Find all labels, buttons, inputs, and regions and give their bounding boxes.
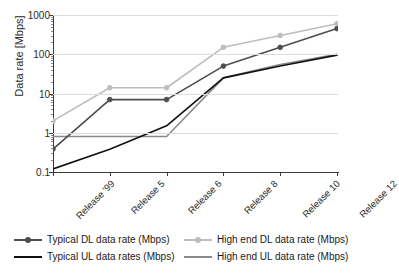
legend-item[interactable]: Typical DL data rate (Mbps) [14, 234, 184, 245]
y-tick-minor [51, 137, 53, 138]
y-tick-minor [51, 109, 53, 110]
y-tick-minor [51, 100, 53, 101]
legend-swatch-icon [184, 252, 212, 262]
y-tick-minor [51, 56, 53, 57]
series-marker [221, 64, 226, 69]
y-tick-minor [51, 21, 53, 22]
legend-item[interactable]: High end UL data rate (Mbps) [184, 251, 354, 262]
series-marker [278, 45, 283, 50]
legend-label: Typical UL data rates (Mbps) [47, 251, 174, 262]
legend-label: High end DL data rate (Mbps) [217, 234, 348, 245]
x-axis-line [53, 172, 339, 173]
y-tick-minor [51, 82, 53, 83]
x-tick [167, 172, 168, 176]
y-tick-label: 0.1 [36, 167, 50, 178]
x-tick [53, 172, 54, 176]
x-axis-tick-labels: Release '99Release 5Release 6Release 8Re… [53, 178, 339, 222]
y-tick-minor [51, 31, 53, 32]
x-tick-label: Release 10 [300, 178, 342, 220]
y-tick-minor [51, 19, 53, 20]
series-marker [53, 119, 55, 124]
series-marker [278, 33, 283, 38]
y-tick-minor [51, 114, 53, 115]
x-tick-label: Release 5 [128, 178, 166, 216]
y-tick-label: 1000 [28, 10, 50, 21]
series-marker [164, 97, 169, 102]
x-tick-label: Release '99 [74, 178, 117, 221]
y-tick-label: 100 [33, 49, 50, 60]
x-tick [280, 172, 281, 176]
y-tick-minor [51, 27, 53, 28]
y-tick-minor [51, 24, 53, 25]
y-axis-tick-labels: 0.11101001000 [0, 15, 50, 173]
series-marker [335, 21, 338, 26]
y-tick-minor [51, 121, 53, 122]
y-tick-minor [51, 139, 53, 140]
y-tick-minor [51, 153, 53, 154]
x-tick [337, 172, 338, 176]
y-tick-minor [51, 58, 53, 59]
x-tick [110, 172, 111, 176]
legend-label: Typical DL data rate (Mbps) [47, 234, 169, 245]
y-tick-minor [51, 60, 53, 61]
gridline [53, 133, 338, 134]
series-marker [335, 26, 338, 31]
gridline [53, 54, 338, 55]
series-marker [164, 85, 169, 90]
y-tick-minor [51, 148, 53, 149]
series-marker [107, 85, 112, 90]
y-tick-minor [51, 102, 53, 103]
y-tick-minor [51, 70, 53, 71]
legend-swatch-icon [14, 235, 42, 245]
legend-item[interactable]: High end DL data rate (Mbps) [184, 234, 354, 245]
x-tick [223, 172, 224, 176]
y-tick-minor [51, 160, 53, 161]
y-tick-minor [51, 145, 53, 146]
legend-label: High end UL data rate (Mbps) [217, 251, 348, 262]
y-tick-minor [51, 63, 53, 64]
legend-item[interactable]: Typical UL data rates (Mbps) [14, 251, 184, 262]
figure-caption [8, 266, 353, 277]
series-marker [53, 147, 55, 152]
y-tick-minor [51, 66, 53, 67]
x-tick-label: Release 12 [357, 178, 399, 220]
y-tick-minor [51, 135, 53, 136]
chart-legend: Typical DL data rate (Mbps)High end DL d… [14, 231, 350, 265]
gridline [53, 15, 338, 16]
y-tick-minor [51, 42, 53, 43]
y-tick-minor [51, 141, 53, 142]
series-marker [221, 45, 226, 50]
y-tick-minor [51, 97, 53, 98]
y-tick-minor [51, 36, 53, 37]
series-marker [107, 97, 112, 102]
plot-area [53, 15, 338, 172]
y-tick-minor [51, 17, 53, 18]
x-tick-label: Release 6 [185, 178, 223, 216]
y-tick-minor [51, 95, 53, 96]
y-tick-minor [51, 105, 53, 106]
x-tick-label: Release 8 [242, 178, 280, 216]
y-tick-minor [51, 75, 53, 76]
legend-swatch-icon [14, 252, 42, 262]
series-line [53, 29, 337, 149]
gridline [53, 94, 338, 95]
legend-swatch-icon [184, 235, 212, 245]
